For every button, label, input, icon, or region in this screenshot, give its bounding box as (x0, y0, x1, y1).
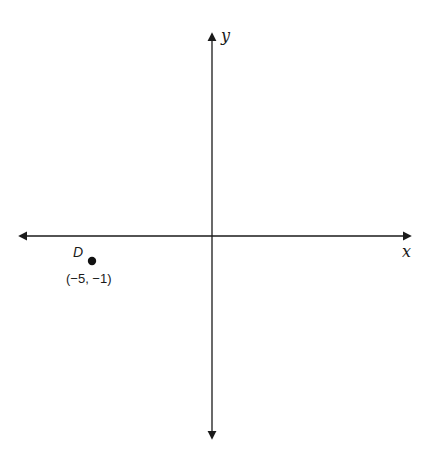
coordinate-plane (0, 0, 434, 459)
y-axis-label: y (221, 26, 230, 45)
point-d-coordinates: (−5, −1) (66, 271, 112, 286)
point-d-label: D (73, 244, 83, 260)
point-d-marker (88, 257, 96, 265)
x-axis-label: x (402, 242, 411, 261)
